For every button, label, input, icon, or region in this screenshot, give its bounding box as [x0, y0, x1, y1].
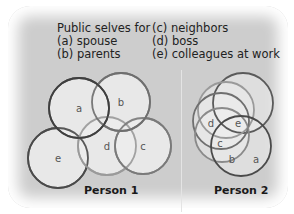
circle-label-e: e: [55, 153, 61, 164]
venn-diagrams: edcba decba: [0, 0, 294, 214]
person2-venn: decba: [193, 73, 273, 176]
circle-label-a: a: [76, 103, 82, 114]
circle-label-b: b: [229, 154, 235, 165]
circle-label-c: c: [217, 138, 223, 149]
person1-venn: edcba: [28, 73, 171, 188]
circle-label-a: a: [253, 154, 259, 165]
circle-label-b: b: [118, 97, 124, 108]
circle-label-c: c: [140, 141, 146, 152]
person2-caption: Person 2: [214, 184, 268, 197]
circle-label-e: e: [235, 118, 241, 129]
person1-caption: Person 1: [84, 184, 138, 197]
circle-label-d: d: [104, 141, 110, 152]
circle-label-d: d: [208, 118, 214, 129]
